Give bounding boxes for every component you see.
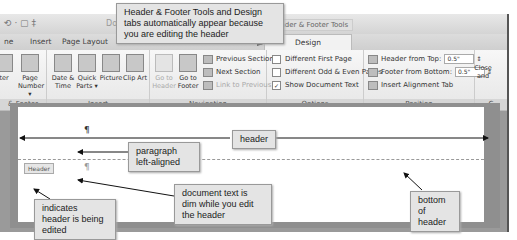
callout-paragraph-aligned: paragraph left-aligned (128, 142, 200, 172)
callout-bottom-of-header: bottom of header (410, 191, 460, 232)
callout-header-edited: indicates header is being edited (34, 199, 116, 240)
callout-document-text-dim: document text is dim while you edit the … (174, 184, 272, 225)
callout-header: header (232, 130, 276, 149)
callout-design-tabs: Header & Footer Tools and Design tabs au… (116, 3, 284, 44)
